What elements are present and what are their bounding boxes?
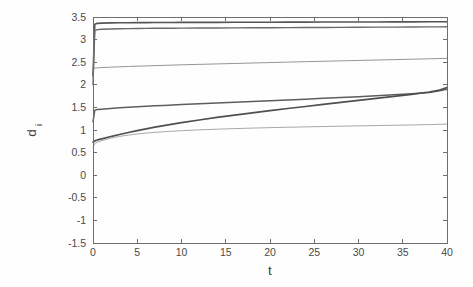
x-tick-label: 5 xyxy=(134,246,140,258)
tick-label-layer: 0510152025303540-1.5-1-0.500.511.522.533… xyxy=(68,11,453,259)
y-axis-label-subscript: i xyxy=(34,124,44,126)
y-tick-label: 3.5 xyxy=(71,11,86,23)
line-chart: 0510152025303540-1.5-1-0.500.511.522.533… xyxy=(0,0,473,287)
x-tick-label: 20 xyxy=(264,246,276,258)
y-axis-label-base: d xyxy=(24,129,39,137)
y-tick-label: 1.5 xyxy=(71,101,86,113)
x-tick-label: 30 xyxy=(353,246,365,258)
series-layer xyxy=(93,22,447,147)
x-tick-label: 15 xyxy=(220,246,232,258)
series-line-2 xyxy=(93,27,447,85)
x-tick-label: 40 xyxy=(441,246,453,258)
y-tick-label: 1 xyxy=(80,124,86,136)
series-line-3 xyxy=(93,58,447,70)
x-tick-label: 25 xyxy=(308,246,320,258)
y-tick-label: 0.5 xyxy=(71,146,86,158)
y-tick-label: 2.5 xyxy=(71,56,86,68)
series-line-6 xyxy=(93,124,447,147)
x-tick-label: 0 xyxy=(90,246,96,258)
y-tick-label: 0 xyxy=(80,169,86,181)
series-line-1 xyxy=(93,22,447,76)
y-tick-label: -0.5 xyxy=(68,191,86,203)
chart-figure: 0510152025303540-1.5-1-0.500.511.522.533… xyxy=(0,0,473,287)
series-line-4 xyxy=(93,89,447,122)
y-tick-label: 3 xyxy=(80,33,86,45)
x-tick-label: 10 xyxy=(176,246,188,258)
y-tick-label: -1 xyxy=(77,214,86,226)
x-axis-label: t xyxy=(268,263,272,278)
x-tick-label: 35 xyxy=(397,246,409,258)
y-tick-label: 2 xyxy=(80,78,86,90)
y-axis-label: d i xyxy=(24,124,44,137)
series-line-5 xyxy=(93,88,447,143)
y-tick-label: -1.5 xyxy=(68,237,86,249)
axes-layer xyxy=(93,17,447,243)
axes-box xyxy=(93,17,447,243)
